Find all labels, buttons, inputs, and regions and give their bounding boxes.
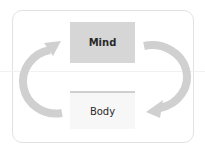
- body-label: Body: [90, 106, 115, 117]
- mind-label: Mind: [89, 37, 117, 48]
- arrow-mind-to-body-icon: [144, 45, 187, 118]
- body-node: Body: [70, 91, 135, 129]
- arrow-body-to-mind-icon: [23, 41, 62, 114]
- mind-node: Mind: [70, 22, 135, 63]
